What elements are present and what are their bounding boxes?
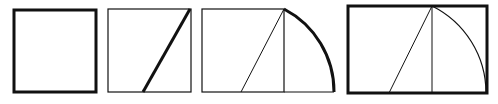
figure-3-arc-swing [202, 9, 334, 92]
diagonal-line [241, 9, 284, 92]
golden-rectangle-diagram [0, 0, 498, 104]
heavy-arc [284, 9, 334, 92]
heavy-golden-rectangle [348, 6, 487, 93]
figure-2-square-diagonal [108, 9, 191, 92]
square-outline [202, 9, 284, 92]
diagonal-line [389, 6, 432, 93]
heavy-square [14, 10, 96, 92]
figure-4-golden-rectangle [348, 6, 487, 93]
heavy-diagonal-line [143, 9, 190, 92]
figure-1-square [14, 10, 96, 92]
arc [432, 6, 486, 93]
diagram-canvas [0, 0, 498, 104]
